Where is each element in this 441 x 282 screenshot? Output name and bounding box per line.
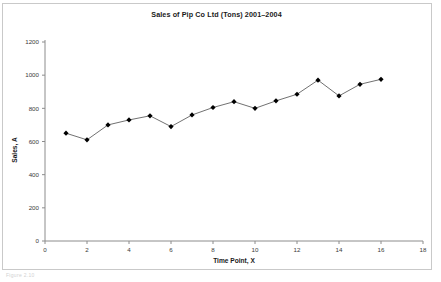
x-tick-label: 16 [378, 246, 385, 253]
y-tick-label: 200 [29, 204, 40, 211]
x-axis-ticks: 024681012141618 [43, 241, 427, 253]
data-point-marker [63, 131, 68, 136]
line-chart-plot: 020040060080010001200 024681012141618 Sa… [0, 0, 441, 282]
x-tick-label: 4 [127, 246, 131, 253]
data-point-marker [294, 92, 299, 97]
x-tick-label: 0 [43, 246, 47, 253]
data-point-marker [231, 99, 236, 104]
y-tick-label: 400 [29, 171, 40, 178]
x-tick-label: 10 [252, 246, 259, 253]
x-tick-label: 12 [294, 246, 301, 253]
y-axis-title: Sales, A [11, 137, 19, 163]
data-point-marker [189, 112, 194, 117]
x-tick-label: 8 [211, 246, 215, 253]
x-tick-label: 18 [420, 246, 427, 253]
y-tick-label: 1200 [25, 38, 39, 45]
x-axis-title: Time Point, X [213, 257, 255, 265]
data-series-markers [63, 77, 383, 143]
data-point-marker [378, 77, 383, 82]
data-point-marker [210, 105, 215, 110]
y-tick-label: 0 [36, 237, 40, 244]
x-tick-label: 14 [336, 246, 343, 253]
y-tick-label: 600 [29, 138, 40, 145]
data-series-line [66, 79, 381, 140]
y-tick-label: 800 [29, 105, 40, 112]
data-point-marker [147, 113, 152, 118]
x-tick-label: 6 [169, 246, 173, 253]
data-point-marker [273, 98, 278, 103]
figure-container: Sales of Pip Co Ltd (Tons) 2001–2004 020… [0, 0, 441, 282]
data-point-marker [84, 137, 89, 142]
data-point-marker [252, 106, 257, 111]
x-tick-label: 2 [85, 246, 89, 253]
data-point-marker [357, 82, 362, 87]
data-point-marker [126, 117, 131, 122]
data-point-marker [168, 124, 173, 129]
y-axis-ticks: 020040060080010001200 [25, 38, 45, 244]
figure-caption: Figure 2.10 [6, 272, 35, 278]
y-tick-label: 1000 [25, 71, 39, 78]
data-point-marker [105, 122, 110, 127]
